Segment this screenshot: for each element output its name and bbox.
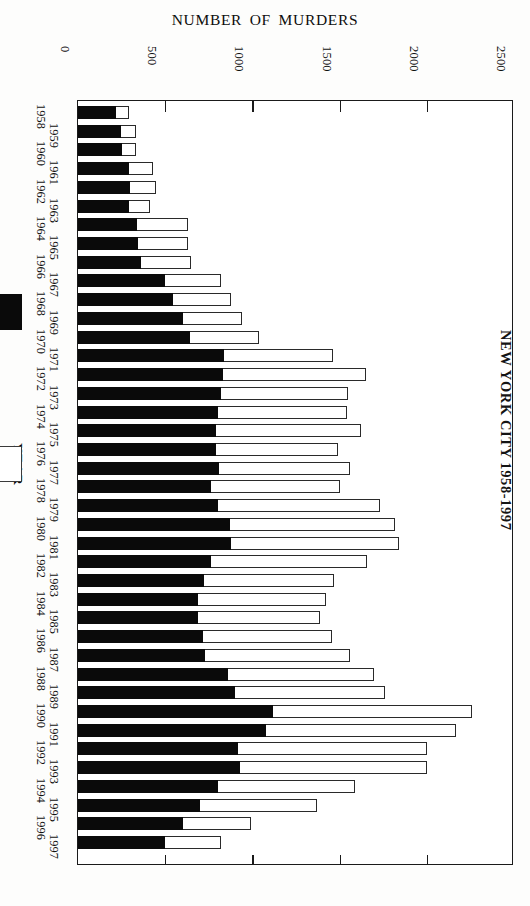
bar-row bbox=[78, 181, 156, 194]
bar-segment-other-weapon bbox=[183, 312, 242, 325]
bar-row bbox=[78, 162, 153, 175]
chart-title: NUMBER OF MURDERS bbox=[0, 11, 530, 29]
bar-segment-firearm bbox=[78, 742, 238, 755]
bar-segment-other-weapon bbox=[273, 705, 472, 718]
bar-segment-firearm bbox=[78, 836, 165, 849]
tick-mark-bottom-1500 bbox=[340, 855, 341, 864]
year-label-1985: 1985 bbox=[46, 609, 61, 634]
bar-segment-firearm bbox=[78, 537, 231, 550]
bar-segment-firearm bbox=[78, 293, 173, 306]
bar-segment-other-weapon bbox=[218, 499, 380, 512]
year-label-1997: 1997 bbox=[46, 834, 61, 859]
bar-segment-other-weapon bbox=[137, 218, 188, 231]
bar-segment-other-weapon bbox=[230, 518, 396, 531]
bar-row bbox=[78, 406, 347, 419]
tick-mark-bottom-1000 bbox=[252, 855, 253, 864]
bar-segment-other-weapon bbox=[129, 162, 153, 175]
year-label-1959: 1959 bbox=[46, 123, 61, 148]
bar-segment-other-weapon bbox=[198, 611, 320, 624]
bar-segment-firearm bbox=[78, 125, 121, 138]
year-label-1963: 1963 bbox=[46, 198, 61, 223]
bar-row bbox=[78, 312, 242, 325]
bar-segment-firearm bbox=[78, 649, 205, 662]
year-label-1971: 1971 bbox=[46, 347, 61, 372]
bar-row bbox=[78, 274, 221, 287]
bar-row bbox=[78, 518, 395, 531]
bar-segment-other-weapon bbox=[238, 742, 426, 755]
bar-row bbox=[78, 106, 129, 119]
chart-page: NUMBER OF MURDERS 05001000150020002500 1… bbox=[0, 0, 530, 906]
bar-row bbox=[78, 780, 355, 793]
bar-segment-other-weapon bbox=[235, 686, 385, 699]
bar-segment-firearm bbox=[78, 761, 240, 774]
bar-row bbox=[78, 555, 367, 568]
bar-segment-firearm bbox=[78, 181, 130, 194]
bar-segment-other-weapon bbox=[121, 125, 136, 138]
bar-segment-other-weapon bbox=[130, 181, 156, 194]
bar-segment-firearm bbox=[78, 799, 200, 812]
year-label-1987: 1987 bbox=[46, 647, 61, 672]
bar-row bbox=[78, 593, 326, 606]
bar-segment-firearm bbox=[78, 312, 183, 325]
bar-segment-other-weapon bbox=[138, 237, 188, 250]
x-axis-tick-2000: 2000 bbox=[407, 46, 421, 102]
bar-segment-firearm bbox=[78, 780, 218, 793]
bar-segment-firearm bbox=[78, 143, 122, 156]
year-label-1979: 1979 bbox=[46, 497, 61, 522]
bar-segment-firearm bbox=[78, 349, 224, 362]
bar-segment-other-weapon bbox=[204, 574, 335, 587]
bar-row bbox=[78, 237, 188, 250]
bar-row bbox=[78, 649, 350, 662]
bar-segment-firearm bbox=[78, 331, 190, 344]
bar-segment-firearm bbox=[78, 480, 211, 493]
x-axis-tick-0: 0 bbox=[58, 46, 72, 102]
bar-segment-other-weapon bbox=[122, 143, 136, 156]
year-label-1983: 1983 bbox=[46, 572, 61, 597]
bar-row bbox=[78, 742, 427, 755]
bar-segment-other-weapon bbox=[211, 480, 340, 493]
bar-row bbox=[78, 761, 427, 774]
bar-segment-firearm bbox=[78, 593, 198, 606]
bar-row bbox=[78, 630, 332, 643]
bar-segment-other-weapon bbox=[218, 780, 356, 793]
bar-row bbox=[78, 705, 472, 718]
bar-segment-other-weapon bbox=[116, 106, 129, 119]
bar-segment-firearm bbox=[78, 668, 228, 681]
tick-mark-top-2000 bbox=[427, 101, 428, 112]
bar-segment-other-weapon bbox=[165, 274, 221, 287]
x-axis-tick-1000: 1000 bbox=[232, 46, 246, 102]
bar-segment-firearm bbox=[78, 555, 211, 568]
bar-row bbox=[78, 424, 361, 437]
bar-row bbox=[78, 331, 259, 344]
bar-row bbox=[78, 817, 251, 830]
tick-mark-top-1000 bbox=[252, 101, 253, 112]
bar-row bbox=[78, 218, 188, 231]
bar-segment-other-weapon bbox=[223, 368, 366, 381]
bar-segment-other-weapon bbox=[240, 761, 427, 774]
bar-segment-firearm bbox=[78, 368, 223, 381]
bar-segment-firearm bbox=[78, 237, 138, 250]
bar-segment-other-weapon bbox=[216, 443, 338, 456]
x-axis-tick-500: 500 bbox=[145, 46, 159, 102]
bar-segment-other-weapon bbox=[231, 537, 398, 550]
bar-segment-firearm bbox=[78, 200, 129, 213]
bar-segment-firearm bbox=[78, 462, 219, 475]
legend-swatch-other bbox=[0, 446, 22, 482]
year-label-1975: 1975 bbox=[46, 422, 61, 447]
bar-segment-firearm bbox=[78, 686, 235, 699]
bar-segment-other-weapon bbox=[218, 406, 347, 419]
bar-segment-other-weapon bbox=[190, 331, 260, 344]
tick-mark-top-1500 bbox=[340, 101, 341, 112]
bar-segment-other-weapon bbox=[198, 593, 325, 606]
bar-row bbox=[78, 368, 366, 381]
bar-row bbox=[78, 537, 399, 550]
bar-segment-firearm bbox=[78, 387, 221, 400]
chart-subtitle: NEW YORK CITY 1958-1997 bbox=[497, 330, 514, 531]
bar-row bbox=[78, 443, 338, 456]
bar-segment-firearm bbox=[78, 574, 204, 587]
bar-row bbox=[78, 293, 231, 306]
bar-row bbox=[78, 574, 334, 587]
bar-row bbox=[78, 143, 136, 156]
bar-segment-other-weapon bbox=[205, 649, 350, 662]
bar-segment-other-weapon bbox=[224, 349, 332, 362]
